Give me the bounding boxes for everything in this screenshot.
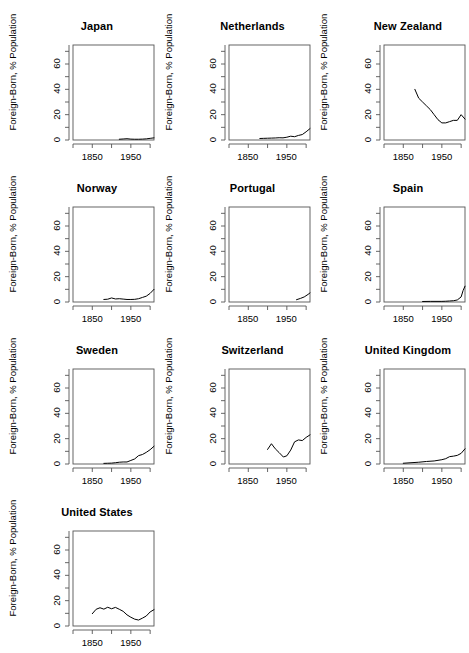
plot-frame: [384, 207, 465, 302]
y-tick-label: 20: [206, 427, 217, 449]
x-tick-label: 1850: [230, 475, 266, 486]
y-tick-label: 40: [51, 564, 62, 586]
x-tick-label: 1950: [113, 313, 149, 324]
plot-area: [0, 504, 156, 653]
data-line: [267, 435, 309, 457]
y-tick-label: 40: [362, 402, 373, 424]
x-tick-label: 1850: [230, 313, 266, 324]
y-tick-label: 20: [362, 427, 373, 449]
panel-united-kingdom: United KingdomForeign-Born, % Population…: [311, 342, 467, 505]
x-tick-label: 1950: [113, 151, 149, 162]
x-tick-label: 1850: [74, 151, 110, 162]
y-tick-label: 40: [206, 240, 217, 262]
y-tick-label: 0: [51, 453, 62, 475]
y-tick-label: 0: [51, 129, 62, 151]
data-line: [423, 286, 465, 301]
y-tick-label: 20: [51, 103, 62, 125]
y-tick-label: 40: [206, 402, 217, 424]
x-tick-label: 1950: [113, 475, 149, 486]
data-line: [119, 138, 154, 139]
plot-frame: [73, 369, 154, 464]
panel-spain: SpainForeign-Born, % Population020406018…: [311, 180, 467, 343]
x-tick-label: 1950: [424, 313, 460, 324]
data-line: [104, 446, 154, 463]
y-tick-label: 20: [51, 589, 62, 611]
y-tick-label: 0: [362, 129, 373, 151]
plot-frame: [73, 207, 154, 302]
y-tick-label: 60: [51, 377, 62, 399]
panel-norway: NorwayForeign-Born, % Population02040601…: [0, 180, 156, 343]
plot-frame: [384, 45, 465, 140]
y-tick-label: 20: [362, 103, 373, 125]
panel-united-states: United StatesForeign-Born, % Population0…: [0, 504, 156, 653]
x-tick-label: 1850: [385, 475, 421, 486]
data-line: [415, 89, 465, 123]
data-line: [104, 289, 154, 299]
panel-sweden: SwedenForeign-Born, % Population02040601…: [0, 342, 156, 505]
x-tick-label: 1950: [268, 475, 304, 486]
y-tick-label: 20: [51, 265, 62, 287]
x-tick-label: 1950: [268, 313, 304, 324]
y-tick-label: 60: [51, 53, 62, 75]
y-tick-label: 60: [362, 215, 373, 237]
small-multiples-chart-grid: JapanForeign-Born, % Population020406018…: [0, 0, 469, 653]
x-tick-label: 1950: [268, 151, 304, 162]
y-tick-label: 40: [206, 78, 217, 100]
plot-frame: [229, 45, 310, 140]
y-tick-label: 20: [51, 427, 62, 449]
y-tick-label: 60: [51, 215, 62, 237]
x-tick-label: 1950: [424, 151, 460, 162]
y-tick-label: 20: [206, 103, 217, 125]
y-tick-label: 40: [51, 402, 62, 424]
y-tick-label: 40: [362, 78, 373, 100]
y-tick-label: 60: [362, 53, 373, 75]
y-tick-label: 20: [362, 265, 373, 287]
x-tick-label: 1850: [74, 313, 110, 324]
plot-frame: [384, 369, 465, 464]
panel-portugal: PortugalForeign-Born, % Population020406…: [156, 180, 312, 343]
y-tick-label: 0: [362, 291, 373, 313]
x-tick-label: 1850: [230, 151, 266, 162]
x-tick-label: 1950: [113, 637, 149, 648]
x-tick-label: 1850: [385, 151, 421, 162]
panel-switzerland: SwitzerlandForeign-Born, % Population020…: [156, 342, 312, 505]
y-tick-label: 0: [51, 615, 62, 637]
y-tick-label: 40: [51, 78, 62, 100]
y-tick-label: 60: [51, 539, 62, 561]
y-tick-label: 0: [51, 291, 62, 313]
x-tick-label: 1850: [74, 475, 110, 486]
x-tick-label: 1850: [74, 637, 110, 648]
x-tick-label: 1950: [424, 475, 460, 486]
panel-japan: JapanForeign-Born, % Population020406018…: [0, 18, 156, 181]
panel-new-zealand: New ZealandForeign-Born, % Population020…: [311, 18, 467, 181]
y-tick-label: 0: [206, 453, 217, 475]
y-tick-label: 60: [206, 215, 217, 237]
y-tick-label: 60: [206, 53, 217, 75]
y-tick-label: 0: [362, 453, 373, 475]
y-tick-label: 60: [362, 377, 373, 399]
y-tick-label: 40: [51, 240, 62, 262]
y-tick-label: 40: [362, 240, 373, 262]
y-tick-label: 0: [206, 291, 217, 313]
plot-frame: [229, 207, 310, 302]
data-line: [296, 293, 310, 300]
x-tick-label: 1850: [385, 313, 421, 324]
plot-frame: [229, 369, 310, 464]
data-line: [403, 449, 465, 463]
plot-frame: [73, 531, 154, 626]
y-tick-label: 20: [206, 265, 217, 287]
data-line: [259, 129, 309, 139]
data-line: [92, 607, 154, 620]
panel-netherlands: NetherlandsForeign-Born, % Population020…: [156, 18, 312, 181]
y-tick-label: 60: [206, 377, 217, 399]
y-tick-label: 0: [206, 129, 217, 151]
plot-frame: [73, 45, 154, 140]
